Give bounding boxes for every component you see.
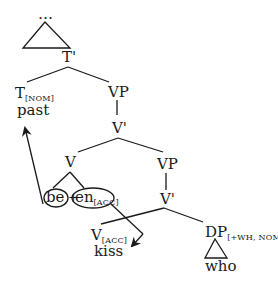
v-head-node: V xyxy=(65,155,76,170)
v-bar-lower-node: V' xyxy=(160,192,175,207)
arrow-be-to-t xyxy=(25,128,43,204)
v-lower-word: kiss xyxy=(94,244,123,259)
en-label: en xyxy=(75,188,94,206)
top-triangle xyxy=(23,22,70,48)
dp-label: DP xyxy=(205,223,227,241)
v-bar-upper-node: V' xyxy=(112,121,127,136)
dp-node: DP[+WH, NOM] xyxy=(205,225,278,245)
top-node-ellipsis: … xyxy=(38,7,53,22)
dp-feature: [+WH, NOM] xyxy=(227,233,278,242)
vp-upper-node: VP xyxy=(108,85,129,100)
vp-lower-node: VP xyxy=(157,157,178,172)
en-morpheme: en[ACC] xyxy=(75,190,119,210)
dp-word: who xyxy=(205,259,237,274)
en-feature: [ACC] xyxy=(94,198,119,207)
t-head-label: T xyxy=(15,84,25,102)
t-bar-node: T' xyxy=(62,50,76,65)
t-head-word: past xyxy=(17,103,49,118)
be-morpheme: be xyxy=(46,190,64,205)
